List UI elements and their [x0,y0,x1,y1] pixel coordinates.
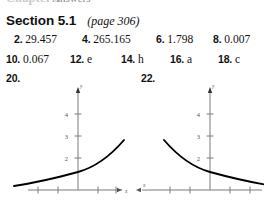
y-tick-label: 3 [197,133,200,140]
answer-item: 16.a [170,53,192,65]
answer-value: e [87,53,92,65]
answer-value: h [138,53,144,65]
answer-value: 265.165 [93,33,130,45]
section-page-reference: (page 306) [87,14,139,28]
y-axis-label: y [211,83,215,89]
answer-number: 6. [156,33,164,45]
y-tick-label: 3 [65,133,68,140]
x-axis-label: x [142,182,146,188]
answer-number: 10. [6,53,20,65]
answer-value: 0.007 [224,33,250,45]
answer-item: 8.0.007 [213,33,250,45]
answer-item: 10.0.067 [6,53,49,65]
graph-20: x y 2 3 4 [0,82,132,203]
answer-item: 6.1.798 [156,33,193,45]
answer-row-1: 2.29.457 4.265.165 6.1.798 8.0.007 [0,33,264,47]
answer-item: 4.265.165 [82,33,131,45]
answer-value: 1.798 [167,33,193,45]
exponential-growth-curve [14,140,124,186]
answer-number: 16. [170,53,184,65]
y-tick-label: 4 [197,111,201,118]
answer-row-2: 10.0.067 12.e 14.h 16.a 18.c [0,53,264,67]
answer-value: 29.457 [25,33,57,45]
answer-key-page: Chapter 5 Answers Section 5.1(page 306) … [0,0,264,203]
section-heading: Section 5.1(page 306) [6,11,140,29]
graph-22: x y 2 3 4 [132,82,264,203]
answer-value: a [187,53,192,65]
y-tick-label: 2 [197,155,200,162]
y-tick-label: 4 [65,111,69,118]
exponential-decay-curve [164,140,264,186]
graph-20-svg: x y 2 3 4 [0,82,132,203]
answer-value: c [235,53,240,65]
answer-number: 14. [121,53,135,65]
clipped-header-strip: Chapter 5 Answers [0,0,264,9]
answer-item: 2.29.457 [14,33,57,45]
y-tick-label: 2 [65,155,68,162]
answer-number: 4. [82,33,90,45]
x-axis-arrow [117,188,122,192]
answer-item: 14.h [121,53,144,65]
x-axis-label: x [124,188,128,194]
answer-number: 18. [218,53,232,65]
answer-number: 8. [213,33,221,45]
answer-item: 18.c [218,53,240,65]
clipped-header-subtext: Answers [52,0,91,4]
answer-value: 0.067 [23,53,49,65]
graph-22-svg: x y 2 3 4 [132,82,264,203]
answer-number: 2. [14,33,22,45]
section-title: Section 5.1 [6,13,76,28]
x-axis-arrow [136,188,141,192]
answer-item: 12.e [70,53,92,65]
y-axis-label: y [79,83,83,89]
answer-number: 12. [70,53,84,65]
